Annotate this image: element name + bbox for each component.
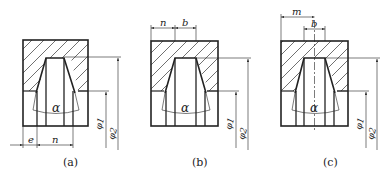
angle-label: α xyxy=(181,101,189,115)
hatched-section xyxy=(23,40,88,91)
figure-a: α φ1 φ2 e n xyxy=(10,40,121,150)
caption-c: (c) xyxy=(323,156,338,169)
phi1-label: φ1 xyxy=(93,116,106,130)
figure-b: α φ1 φ2 n b xyxy=(151,17,251,150)
figure-c: α φ1 φ2 m b xyxy=(281,6,380,150)
phi1-label: φ1 xyxy=(223,116,236,130)
phi1-label: φ1 xyxy=(353,116,366,130)
technical-drawing: α φ1 φ2 e n α φ1 φ2 xyxy=(0,0,390,176)
dim-e-label: e xyxy=(28,134,34,145)
dim-b-label: b xyxy=(311,18,317,29)
dim-n-label: n xyxy=(52,134,58,145)
caption-b: (b) xyxy=(192,156,208,169)
caption-a: (a) xyxy=(63,156,78,169)
dim-b-label: b xyxy=(182,17,188,28)
phi2-label: φ2 xyxy=(236,126,249,140)
angle-label: α xyxy=(310,101,318,115)
angle-label: α xyxy=(52,101,60,115)
hatched-section xyxy=(151,41,218,91)
dim-m-label: m xyxy=(292,6,301,17)
phi2-label: φ2 xyxy=(365,126,378,140)
phi2-label: φ2 xyxy=(106,126,119,140)
dim-n-label: n xyxy=(160,17,166,28)
